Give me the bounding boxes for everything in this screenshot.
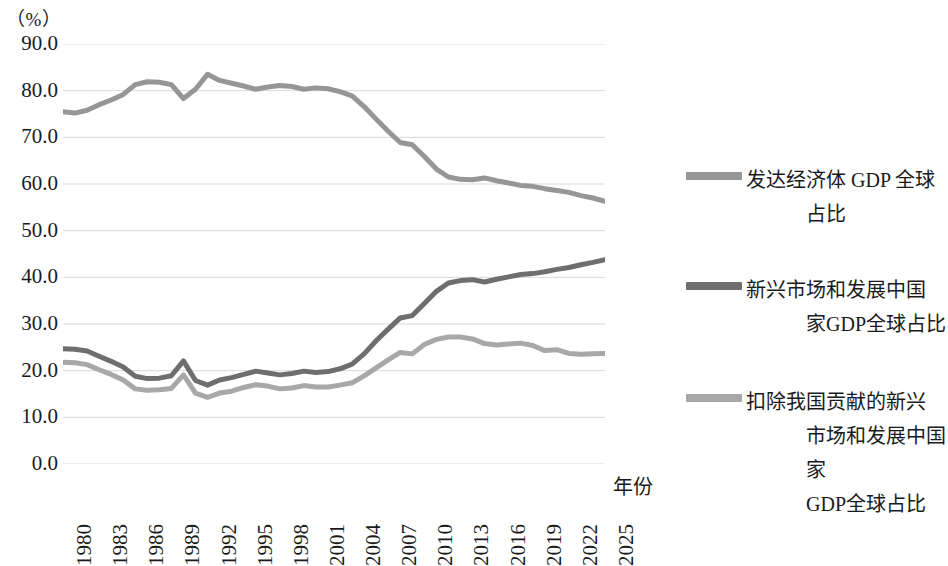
legend-label-1-line2: 家GDP全球占比 [806,307,946,341]
x-axis-tick-label: 1995 [255,524,276,566]
y-axis: 90.080.070.060.050.040.030.020.010.00.0 [0,0,58,527]
y-axis-tick-label: 0.0 [0,453,58,474]
chart-svg [63,44,605,464]
gridlines [63,44,605,464]
x-axis: 1980198319861989199219951998200120042007… [63,466,605,527]
series-lines [63,74,605,397]
x-axis-tick-label: 2022 [580,524,601,566]
x-axis-tick-label: 2019 [544,524,565,566]
x-axis-tick-label: 1989 [182,524,203,566]
x-axis-tick-label: 2013 [471,524,492,566]
y-axis-tick-label: 90.0 [0,33,58,54]
x-axis-tick-label: 1986 [146,524,167,566]
x-axis-tick-label: 1992 [219,524,240,566]
y-axis-tick-label: 50.0 [0,220,58,241]
y-axis-tick-label: 60.0 [0,173,58,194]
x-axis-tick-label: 2007 [399,524,420,566]
y-axis-tick-label: 80.0 [0,80,58,101]
x-axis-title: 年份 [613,471,653,500]
legend-swatch-emerging [686,282,742,290]
y-axis-tick-label: 10.0 [0,406,58,427]
x-axis-tick-label: 2010 [435,524,456,566]
legend-swatch-emerging-ex-china [686,394,742,402]
y-axis-tick-label: 20.0 [0,360,58,381]
x-axis-tick-label: 2004 [363,524,384,566]
x-axis-tick-label: 2025 [616,524,637,566]
legend-label-2: 扣除我国贡献的新兴市场和发展中国家GDP全球占比 [746,385,946,521]
legend-item-1[interactable]: 新兴市场和发展中国家GDP全球占比 [686,273,946,341]
legend-swatch-developed [686,172,742,180]
legend-label-2-line2: 市场和发展中国家 [806,419,946,487]
y-axis-tick-label: 40.0 [0,266,58,287]
x-axis-tick-label: 2001 [327,524,348,566]
x-axis-tick-label: 2016 [508,524,529,566]
series-line-2 [63,337,605,397]
x-axis-tick-label: 1980 [74,524,95,566]
y-axis-tick-label: 70.0 [0,126,58,147]
series-line-1 [63,260,605,386]
y-axis-tick-label: 30.0 [0,313,58,334]
x-axis-tick-label: 1998 [291,524,312,566]
legend-item-0[interactable]: 发达经济体 GDP 全球占比 [686,163,946,231]
legend-label-0-line2: 占比 [806,197,946,231]
plot-area [63,44,605,464]
legend-item-2[interactable]: 扣除我国贡献的新兴市场和发展中国家GDP全球占比 [686,385,946,521]
legend-label-1: 新兴市场和发展中国家GDP全球占比 [746,273,946,341]
legend-label-2-line3: GDP全球占比 [806,487,946,521]
x-axis-tick-label: 1983 [110,524,131,566]
legend-label-0: 发达经济体 GDP 全球占比 [746,163,946,231]
